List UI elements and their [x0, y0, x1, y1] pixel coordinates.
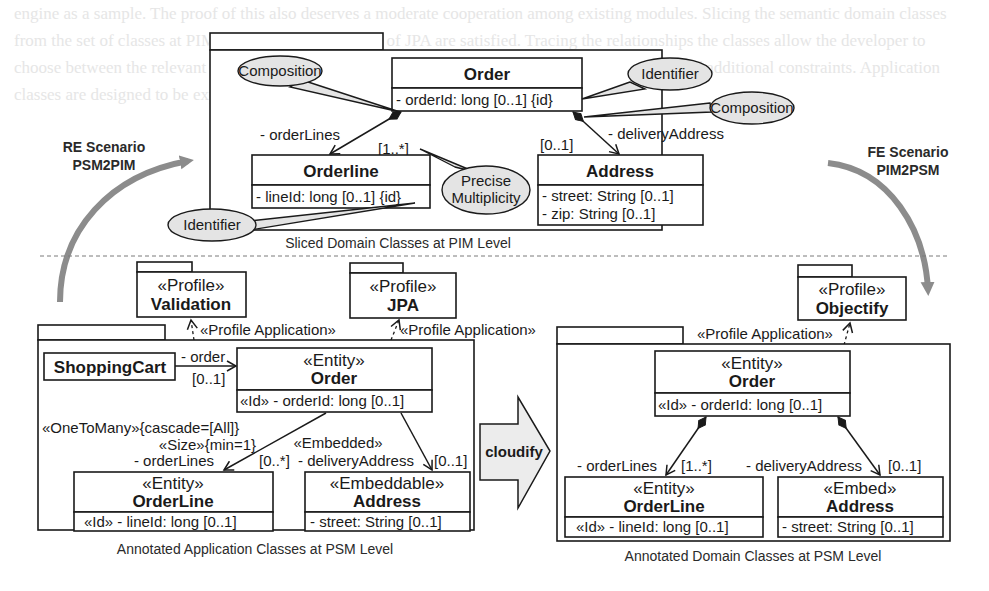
psm-domain-address-attr: - street: String [0..1] [782, 518, 914, 535]
fe-scenario-label-2: PIM2PSM [876, 162, 939, 178]
pim-order-name: Order [464, 65, 511, 84]
psm-app-orderline-stereotype: «Entity» [142, 474, 203, 493]
psm-domain-orderlines-role: - orderLines [577, 457, 657, 474]
psm-app-address-attr: - street: String [0..1] [310, 513, 442, 530]
cloudify-label: cloudify [485, 443, 543, 460]
objectify-stereotype: «Profile» [818, 280, 885, 299]
objectify-profile-application [844, 323, 850, 345]
pim-orderlines-role: - orderLines [260, 126, 340, 143]
composition-left-label: Composition [238, 62, 321, 79]
jpa-name: JPA [387, 296, 419, 315]
cart-order-role: - order [181, 348, 225, 365]
pim-orderline-attr: - lineId: long [0..1] {id} [256, 188, 401, 205]
fe-scenario-label-1: FE Scenario [868, 144, 949, 160]
embedded-annotation: «Embedded» [293, 434, 382, 451]
validation-stereotype: «Profile» [157, 276, 224, 295]
jpa-stereotype: «Profile» [369, 277, 436, 296]
psm-app-address-stereotype: «Embeddable» [330, 474, 444, 493]
re-scenario-label-2: PSM2PIM [72, 157, 135, 173]
psm-domain-delivery-role: - deliveryAddress [746, 457, 862, 474]
psm-domain-order-stereotype: «Entity» [721, 354, 782, 373]
psm-app-address-name: Address [353, 492, 421, 511]
pim-delivery-role: - deliveryAddress [608, 125, 724, 142]
psm-domain-orderline-attr: «Id» - lineId: long [0..1] [576, 518, 729, 535]
jpa-application-label: «Profile Application» [400, 321, 536, 338]
psm-app-order-attr: «Id» - orderId: long [0..1] [240, 392, 404, 409]
size-annotation: «Size»{min=1} [159, 436, 256, 453]
validation-name: Validation [151, 295, 231, 314]
precise-label-2: Multiplicity [451, 189, 521, 206]
psm-domain-caption: Annotated Domain Classes at PSM Level [625, 548, 882, 564]
pim-address-attr-zip: - zip: String [0..1] [542, 205, 655, 222]
psm-app-orderlines-mult: [0..*] [259, 452, 290, 469]
psm-app-orderline-name: OrderLine [132, 492, 213, 511]
psm-domain-orderline-name: OrderLine [623, 497, 704, 516]
psm-domain-orderline-stereotype: «Entity» [633, 479, 694, 498]
precise-label-1: Precise [461, 172, 511, 189]
psm-domain-order-attr: «Id» - orderId: long [0..1] [658, 396, 822, 413]
psm-domain-delivery-mult: [0..1] [888, 457, 921, 474]
psm-application-caption: Annotated Application Classes at PSM Lev… [117, 541, 393, 557]
validation-profile-application [191, 320, 194, 340]
onetomany-annotation: «OneToMany»{cascade=[All]} [42, 419, 239, 436]
objectify-name: Objectify [816, 299, 889, 318]
jpa-profile-application [391, 320, 399, 340]
pim-delivery-mult: [0..1] [540, 136, 573, 153]
psm-app-orderlines-role: - orderLines [134, 452, 214, 469]
psm-app-delivery-mult: [0..1] [434, 452, 467, 469]
psm-app-order-name: Order [311, 369, 358, 388]
diagram-canvas: RE Scenario PSM2PIM FE Scenario PIM2PSM … [0, 0, 989, 591]
pim-caption: Sliced Domain Classes at PIM Level [285, 235, 511, 251]
validation-application-label: «Profile Application» [200, 321, 336, 338]
cart-order-mult: [0..1] [192, 370, 225, 387]
psm-app-order-stereotype: «Entity» [303, 351, 364, 370]
psm-domain-address-name: Address [826, 497, 894, 516]
objectify-application-label: «Profile Application» [697, 325, 833, 342]
psm-app-delivery-role: - deliveryAddress [298, 452, 414, 469]
identifier-top-label: Identifier [641, 65, 699, 82]
shoppingcart-name: ShoppingCart [54, 358, 167, 377]
psm-domain-orderlines-mult: [1..*] [681, 457, 712, 474]
pim-address-name: Address [586, 162, 654, 181]
psm-domain-order-name: Order [729, 372, 776, 391]
identifier-bottom-label: Identifier [183, 216, 241, 233]
pim-address-attr-street: - street: String [0..1] [542, 187, 674, 204]
pim-order-attr: - orderId: long [0..1] {id} [396, 91, 553, 108]
re-scenario-label-1: RE Scenario [63, 139, 145, 155]
pim-orderline-name: Orderline [303, 162, 379, 181]
psm-domain-address-stereotype: «Embed» [824, 479, 897, 498]
psm-app-orderline-attr: «Id» - lineId: long [0..1] [84, 513, 237, 530]
composition-right-label: Composition [710, 99, 793, 116]
